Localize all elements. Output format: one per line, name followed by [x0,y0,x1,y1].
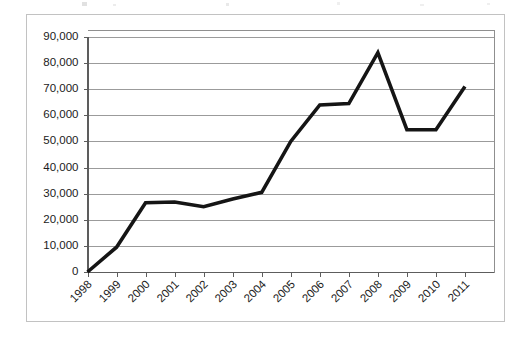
x-axis-tick-label: 1998 [67,278,94,305]
chart-figure: 010,00020,00030,00040,00050,00060,00070,… [0,0,526,338]
plot-area-border [88,31,495,273]
x-axis-tick-label: 2001 [154,278,181,305]
line-chart: 010,00020,00030,00040,00050,00060,00070,… [0,0,526,338]
y-axis-tick-label: 80,000 [43,56,78,68]
y-axis-tick-label: 60,000 [43,108,78,120]
y-axis-tick-label: 10,000 [43,239,78,251]
y-axis-tick-label: 40,000 [43,161,78,173]
x-axis-tick-label: 2011 [445,278,471,304]
y-axis-tick-label: 50,000 [43,134,78,146]
x-axis-tick-label: 2008 [358,278,385,305]
y-axis-tick-label: 30,000 [43,187,78,199]
x-axis-tick-label: 2004 [242,278,269,305]
y-axis-tick-label: 20,000 [43,213,78,225]
y-axis-tick-label: 70,000 [43,82,78,94]
x-axis-tick-label: 2005 [271,278,298,305]
plot-area-outline [88,31,495,273]
data-series-line [88,53,465,272]
x-axis-tick-label: 2010 [416,278,443,305]
x-axis-tick-label: 2000 [125,278,152,305]
gridlines [84,38,495,273]
x-axis-tick-label: 2002 [183,278,210,305]
x-axis-tick-label: 2009 [387,278,414,305]
data-series [88,53,465,272]
x-axis-tick-label: 2003 [213,278,240,305]
x-axis-labels: 1998199920002001200220032004200520062007… [67,278,471,305]
y-axis-labels: 010,00020,00030,00040,00050,00060,00070,… [43,30,78,277]
x-axis-tick-label: 2007 [329,278,356,305]
y-axis-tick-label: 0 [72,265,78,277]
y-axis-tick-label: 90,000 [43,30,78,42]
x-axis-tick-label: 2006 [300,278,327,305]
x-axis-tick-label: 1999 [96,278,123,305]
